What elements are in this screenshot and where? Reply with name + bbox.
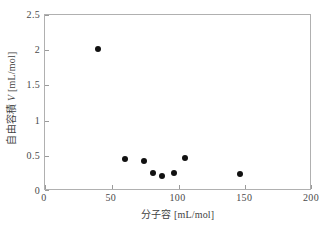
x-axis-tick: [311, 185, 312, 189]
x-tick-label: 150: [236, 192, 252, 204]
y-axis-title-container: 自由容積 V [mL/mol]: [0, 0, 22, 196]
y-axis-tick: [45, 121, 49, 122]
y-axis-tick: [45, 15, 49, 16]
data-point: [182, 155, 188, 161]
data-point: [159, 173, 165, 179]
data-point: [171, 170, 177, 176]
y-axis-title-suffix: [mL/mol]: [5, 52, 16, 95]
data-point: [150, 170, 156, 176]
x-axis-tick: [45, 185, 46, 189]
x-tick-label: 50: [105, 192, 116, 204]
data-point: [95, 46, 101, 52]
y-tick-label: 0: [35, 185, 40, 196]
x-axis-title: 分子容 [mL/mol]: [44, 208, 311, 221]
plot-area: [45, 15, 310, 189]
y-axis-title: 自由容積 V [mL/mol]: [5, 52, 17, 145]
y-axis-title-variable: V: [5, 95, 16, 101]
y-axis-tick: [45, 156, 49, 157]
x-tick-label: 200: [303, 192, 319, 204]
y-tick-label: 1.5: [27, 79, 40, 90]
x-axis-tick: [245, 185, 246, 189]
x-tick-label: 0: [41, 192, 46, 204]
x-tick-label: 100: [170, 192, 186, 204]
y-tick-label: 2.5: [27, 9, 40, 20]
x-axis-tick: [112, 185, 113, 189]
scatter-chart-figure: 自由容積 V [mL/mol] 00.511.522.5 05010015020…: [0, 0, 331, 231]
x-axis-tick: [179, 185, 180, 189]
data-point: [122, 156, 128, 162]
data-point: [141, 158, 147, 164]
y-tick-label: 2: [35, 44, 40, 55]
y-tick-label: 0.5: [27, 149, 40, 160]
y-tick-label: 1: [35, 114, 40, 125]
y-axis-tick: [45, 190, 49, 191]
plot-frame: [44, 14, 311, 190]
y-axis-tick: [45, 85, 49, 86]
y-axis-tick: [45, 50, 49, 51]
data-point: [237, 171, 243, 177]
y-axis-title-prefix: 自由容積: [5, 101, 16, 145]
